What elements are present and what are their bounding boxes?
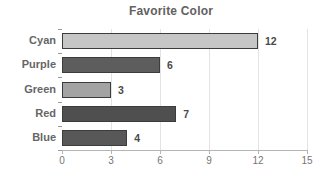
bar-blue	[62, 130, 127, 146]
y-axis-tick	[58, 77, 62, 78]
value-label-red: 7	[183, 106, 189, 122]
category-label-cyan: Cyan	[0, 34, 56, 46]
x-tick-label-6: 6	[148, 155, 172, 166]
category-label-purple: Purple	[0, 58, 56, 70]
value-label-cyan: 12	[265, 33, 277, 49]
gridline	[258, 29, 259, 150]
x-axis-tick	[307, 150, 308, 154]
plot-area: 126374	[62, 29, 307, 151]
x-axis-tick	[62, 150, 63, 154]
value-label-green: 3	[118, 82, 124, 98]
category-label-red: Red	[0, 107, 56, 119]
x-axis-tick	[160, 150, 161, 154]
gridline	[307, 29, 308, 150]
value-label-blue: 4	[134, 130, 140, 146]
y-axis-tick	[58, 126, 62, 127]
x-tick-label-9: 9	[197, 155, 221, 166]
y-axis-tick	[58, 150, 62, 151]
x-tick-label-15: 15	[295, 155, 319, 166]
y-axis-tick	[58, 53, 62, 54]
y-axis-tick	[58, 29, 62, 30]
category-label-blue: Blue	[0, 131, 56, 143]
favorite-color-bar-chart: Favorite Color CyanPurpleGreenRedBlue 12…	[0, 0, 332, 180]
x-axis-tick	[111, 150, 112, 154]
y-axis-tick	[58, 102, 62, 103]
x-tick-label-12: 12	[246, 155, 270, 166]
value-label-purple: 6	[167, 57, 173, 73]
x-axis-tick	[258, 150, 259, 154]
bar-red	[62, 106, 176, 122]
chart-title: Favorite Color	[10, 4, 332, 18]
bar-green	[62, 82, 111, 98]
category-label-green: Green	[0, 83, 56, 95]
x-tick-label-0: 0	[50, 155, 74, 166]
x-tick-label-3: 3	[99, 155, 123, 166]
x-axis-tick	[209, 150, 210, 154]
bar-cyan	[62, 33, 258, 49]
bar-purple	[62, 57, 160, 73]
y-axis-category-labels: CyanPurpleGreenRedBlue	[0, 29, 56, 150]
